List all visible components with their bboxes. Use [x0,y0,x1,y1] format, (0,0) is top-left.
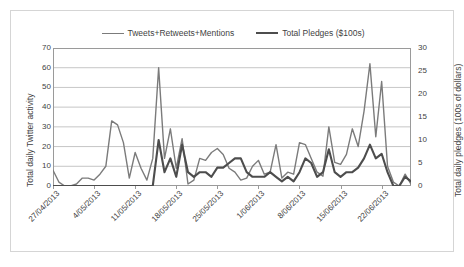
x-tick-mark [258,186,259,189]
x-tick-label: 1/06/2013 [225,189,267,231]
legend-item-tweets: Tweets+Retweets+Mentions [102,28,235,38]
x-tick-mark [176,186,177,189]
x-tick-mark [94,186,95,189]
y-tick-label-right: 0 [413,182,450,190]
y-axis-left-title: Total daily Twitter activity [25,94,35,187]
y-tick-label-right: 20 [413,90,450,98]
y-axis-left: 010203040506070 [19,42,51,192]
y-tick-label-left: 40 [19,103,51,111]
y-tick-label-right: 10 [413,136,450,144]
y-tick-label-left: 20 [19,143,51,151]
x-tick-mark [382,186,383,189]
y-tick-label-right: 25 [413,67,450,75]
legend-label-pledges: Total Pledges ($100s) [282,28,364,38]
x-tick-mark [299,186,300,189]
legend-item-pledges: Total Pledges ($100s) [256,28,364,38]
legend-line-swatch-pledges [256,32,278,34]
y-axis-right-title: Total daily pledges (100s of dollars) [453,64,463,197]
x-tick-mark [135,186,136,189]
chart-legend: Tweets+Retweets+Mentions Total Pledges (… [11,25,455,41]
x-tick-mark [217,186,218,189]
y-tick-label-left: 70 [19,44,51,52]
x-tick-label: 22/06/2013 [348,189,390,231]
x-tick-mark [53,186,54,189]
chart-container: Tweets+Retweets+Mentions Total Pledges (… [10,10,454,252]
y-tick-label-left: 60 [19,64,51,72]
legend-label-tweets: Tweets+Retweets+Mentions [128,28,235,38]
y-tick-label-left: 30 [19,123,51,131]
x-tick-mark [341,186,342,189]
x-tick-label: 18/05/2013 [143,189,185,231]
plot-area [53,48,411,186]
x-tick-label: 15/06/2013 [307,189,349,231]
gridlines [53,48,411,166]
x-tick-label: 27/04/2013 [20,189,62,231]
x-tick-label: 25/05/2013 [184,189,226,231]
x-tick-label: 4/05/2013 [61,189,103,231]
y-tick-label-right: 30 [413,44,450,52]
y-tick-label-left: 0 [19,182,51,190]
y-tick-label-left: 50 [19,83,51,91]
y-axis-right: 051015202530 [413,42,445,192]
series-group [53,64,411,186]
x-tick-label: 8/06/2013 [266,189,308,231]
x-axis-labels: 27/04/20134/05/201311/05/201318/05/20132… [53,189,411,249]
legend-line-swatch-tweets [102,33,124,34]
plot-svg [53,48,411,186]
plot-border [54,49,411,186]
y-tick-label-right: 5 [413,159,450,167]
y-tick-label-left: 10 [19,162,51,170]
y-tick-label-right: 15 [413,113,450,121]
x-tick-label: 11/05/2013 [102,189,144,231]
